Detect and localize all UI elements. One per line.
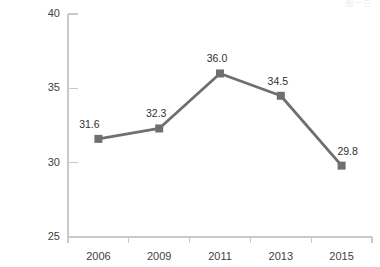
x-axis-tick-label: 2011 [190,251,251,262]
x-axis-tick-label: 2015 [311,251,372,262]
data-point-marker [338,162,346,170]
data-point-label: 36.0 [197,53,237,64]
data-point-marker [155,124,163,132]
data-point-markers [94,69,345,169]
y-axis-tick-label: 25 [34,231,60,242]
data-point-label: 34.5 [258,76,298,87]
x-axis-tick-label: 2006 [68,251,129,262]
y-axis-tick-label: 30 [34,157,60,168]
x-axis-tick-label: 2009 [129,251,190,262]
y-axis-tick-label: 35 [34,82,60,93]
y-axis-tick-label: 40 [34,8,60,19]
data-series-line [98,73,341,165]
data-point-marker [277,92,285,100]
line-chart: 图一三 25303540 20062009201120132015 31.632… [0,0,380,267]
data-point-label: 29.8 [328,146,368,157]
chart-plot-area [0,0,380,267]
series-polyline [98,73,341,165]
data-point-marker [94,135,102,143]
chart-axes [68,14,372,243]
data-point-label: 32.3 [136,108,176,119]
x-axis-tick-label: 2013 [250,251,311,262]
data-point-label: 31.6 [69,119,109,130]
data-point-marker [216,69,224,77]
